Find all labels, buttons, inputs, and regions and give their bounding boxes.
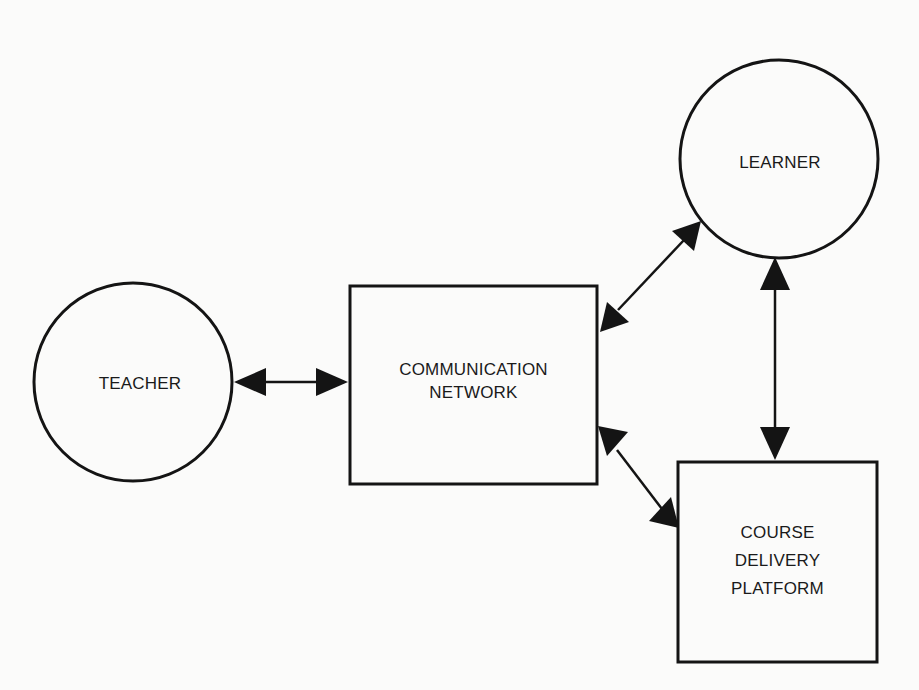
communication-network-label: COMMUNICATION NETWORK: [350, 356, 597, 406]
edge-learner-course: [760, 257, 790, 460]
course-label-line-3: PLATFORM: [731, 575, 824, 603]
arrowhead-up-left-icon: [598, 426, 628, 456]
course-delivery-platform-label: COURSE DELIVERY PLATFORM: [678, 519, 877, 603]
course-label-line-1: COURSE: [741, 519, 815, 547]
edge-teacher-communication: [234, 368, 348, 396]
arrowhead-down-icon: [760, 427, 790, 460]
learner-label: LEARNER: [700, 149, 860, 175]
arrowhead-down-right-icon: [649, 497, 679, 528]
arrowhead-up-icon: [760, 257, 790, 290]
teacher-label: TEACHER: [60, 370, 220, 396]
course-label-line-2: DELIVERY: [735, 547, 820, 575]
communication-label-line-1: COMMUNICATION: [399, 358, 548, 381]
arrowhead-right-icon: [316, 368, 348, 396]
edge-communication-course: [598, 426, 679, 528]
diagram-canvas: TEACHER COMMUNICATION NETWORK LEARNER CO…: [0, 0, 919, 690]
arrowhead-down-left-icon: [600, 302, 629, 332]
teacher-label-line: TEACHER: [99, 373, 182, 394]
edge-communication-learner: [600, 221, 701, 332]
arrowhead-left-icon: [234, 368, 266, 396]
learner-label-line: LEARNER: [739, 152, 821, 173]
communication-label-line-2: NETWORK: [429, 381, 517, 404]
